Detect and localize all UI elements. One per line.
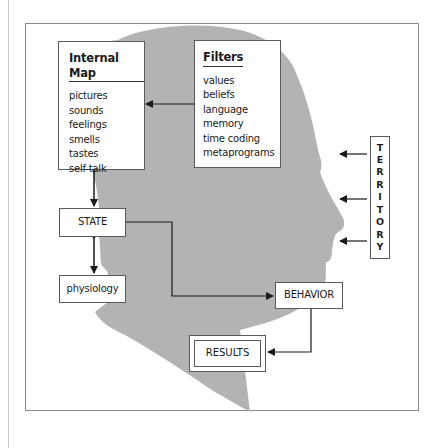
territory-letter: R bbox=[376, 166, 383, 178]
state-label: STATE bbox=[78, 215, 107, 230]
results-box: RESULTS bbox=[189, 335, 266, 372]
list-item: beliefs bbox=[203, 88, 280, 103]
territory-letter: R bbox=[376, 179, 383, 191]
filters-box: Filters values beliefs language memory t… bbox=[194, 40, 281, 168]
list-item: metaprograms bbox=[203, 146, 280, 161]
territory-letter: I bbox=[378, 191, 382, 203]
list-item: feelings bbox=[69, 118, 144, 133]
internal-map-title: Internal Map bbox=[69, 51, 144, 82]
behavior-box: BEHAVIOR bbox=[275, 282, 343, 309]
results-label: RESULTS bbox=[206, 346, 250, 361]
physiology-label: physiology bbox=[67, 282, 119, 297]
filters-title: Filters bbox=[203, 50, 243, 67]
list-item: pictures bbox=[69, 89, 144, 104]
state-box: STATE bbox=[59, 208, 126, 237]
list-item: language bbox=[203, 103, 280, 118]
list-item: memory bbox=[203, 117, 280, 132]
list-item: self-talk bbox=[69, 162, 144, 177]
internal-map-box: Internal Map pictures sounds feelings sm… bbox=[58, 41, 145, 170]
territory-letter: T bbox=[377, 142, 383, 154]
territory-letter: T bbox=[377, 204, 383, 216]
list-item: tastes bbox=[69, 147, 144, 162]
territory-letter: Y bbox=[377, 241, 384, 253]
results-inner-box: RESULTS bbox=[194, 340, 261, 367]
list-item: time coding bbox=[203, 132, 280, 147]
territory-box: T E R R I T O R Y bbox=[370, 136, 390, 259]
list-item: values bbox=[203, 74, 280, 89]
filters-list: values beliefs language memory time codi… bbox=[203, 74, 280, 161]
territory-letter: R bbox=[376, 229, 383, 241]
list-item: sounds bbox=[69, 104, 144, 119]
territory-letter: O bbox=[376, 216, 384, 228]
internal-map-list: pictures sounds feelings smells tastes s… bbox=[69, 89, 144, 176]
territory-letter: E bbox=[377, 154, 384, 166]
physiology-box: physiology bbox=[59, 275, 126, 303]
list-item: smells bbox=[69, 133, 144, 148]
behavior-label: BEHAVIOR bbox=[284, 288, 334, 303]
